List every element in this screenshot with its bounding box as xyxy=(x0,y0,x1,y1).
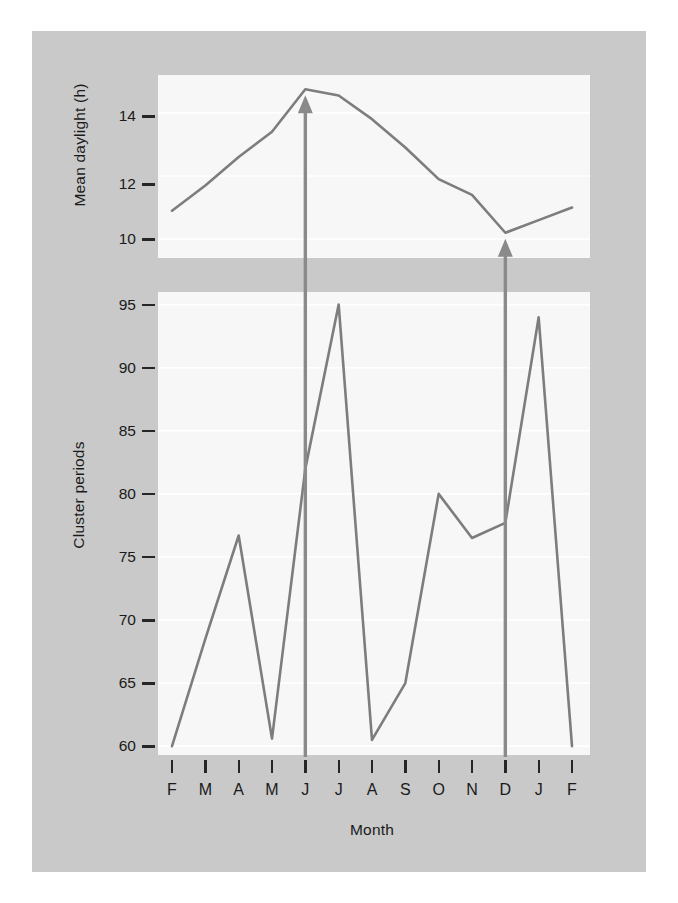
figure-page: Mean daylight (h) 14 12 10 Cluster perio… xyxy=(0,0,678,903)
figure-inner: Mean daylight (h) 14 12 10 Cluster perio… xyxy=(32,31,646,872)
arrow-june-solstice-head xyxy=(298,95,313,113)
figure-mount: Mean daylight (h) 14 12 10 Cluster perio… xyxy=(32,31,646,872)
annotation-arrow-layer xyxy=(32,31,646,872)
arrow-june-solstice xyxy=(298,95,313,757)
arrow-december-solstice xyxy=(498,239,513,757)
arrow-december-solstice-head xyxy=(498,239,513,257)
